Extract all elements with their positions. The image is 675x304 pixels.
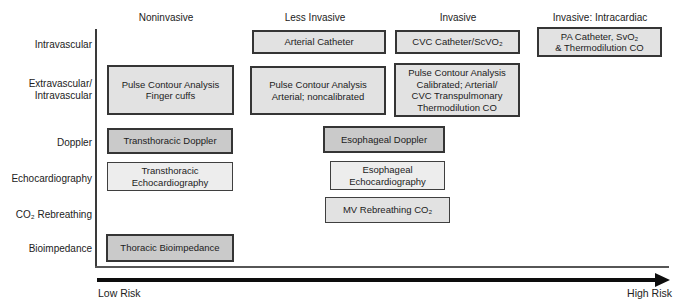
column-header-noninvasive: Noninvasive bbox=[106, 11, 226, 24]
row-label-intravascular: Intravascular bbox=[0, 39, 92, 51]
high-risk-label: High Risk bbox=[627, 287, 672, 299]
box-arterial-catheter: Arterial Catheter bbox=[252, 30, 386, 54]
row-label-echocardiography: Echocardiography bbox=[0, 173, 92, 185]
box-transthoracic-doppler: Transthoracic Doppler bbox=[107, 128, 233, 154]
box-cvc-catheter-scvo2: CVC Catheter/ScVO₂ bbox=[395, 30, 520, 54]
column-header-invasive-intracardiac: Invasive: Intracardiac bbox=[528, 11, 672, 24]
row-label-bioimpedance: Bioimpedance bbox=[0, 243, 92, 255]
risk-arrow-shaft bbox=[97, 278, 656, 282]
hemodynamic-monitoring-invasiveness-diagram: Noninvasive Less Invasive Invasive Invas… bbox=[0, 0, 675, 304]
horizontal-baseline bbox=[95, 266, 669, 268]
box-pulse-contour-finger-cuffs: Pulse Contour Analysis Finger cuffs bbox=[107, 65, 234, 115]
column-header-less-invasive: Less Invasive bbox=[255, 11, 375, 24]
box-mv-rebreathing-co2: MV Rebreathing CO₂ bbox=[325, 197, 450, 223]
risk-arrow-head bbox=[655, 273, 670, 287]
row-label-doppler: Doppler bbox=[0, 137, 92, 149]
box-thoracic-bioimpedance: Thoracic Bioimpedance bbox=[106, 234, 234, 262]
row-label-co2-rebreathing: CO₂ Rebreathing bbox=[0, 209, 92, 221]
box-transthoracic-echocardiography: Transthoracic Echocardiography bbox=[107, 162, 233, 191]
vertical-axis-line bbox=[95, 29, 97, 268]
box-pa-catheter-thermodilution: PA Catheter, SvO₂ & Thermodilution CO bbox=[537, 27, 662, 57]
box-pulse-contour-arterial-noncalibrated: Pulse Contour Analysis Arterial; noncali… bbox=[250, 66, 386, 115]
box-esophageal-doppler: Esophageal Doppler bbox=[323, 126, 445, 153]
low-risk-label: Low Risk bbox=[98, 287, 141, 299]
box-esophageal-echocardiography: Esophageal Echocardiography bbox=[330, 161, 445, 190]
column-header-invasive: Invasive bbox=[398, 11, 518, 24]
row-label-extravascular-intravascular: Extravascular/ Intravascular bbox=[0, 78, 92, 102]
box-pulse-contour-calibrated-transpulmonary: Pulse Contour Analysis Calibrated; Arter… bbox=[394, 63, 520, 117]
